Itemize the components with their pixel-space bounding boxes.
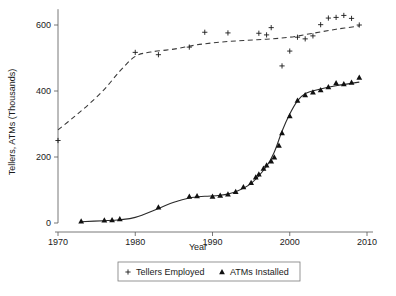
data-point-triangle: [156, 204, 162, 209]
x-tick-group: 19701980199020002010: [48, 232, 377, 247]
data-point-triangle: [349, 79, 355, 84]
y-axis-title: Tellers, ATMs (Thousands): [7, 69, 17, 175]
trend-line-tellers: [58, 26, 359, 130]
legend-item-tellers[interactable]: Tellers Employed: [125, 267, 204, 277]
data-point-triangle: [333, 80, 339, 85]
legend-label: Tellers Employed: [136, 267, 205, 277]
data-point-triangle: [356, 74, 362, 79]
chart-figure: 0200400600 19701980199020002010 Year Tel…: [0, 0, 396, 296]
x-axis-title: Year: [189, 242, 207, 252]
data-point-triangle: [101, 217, 107, 222]
y-tick-group: 0200400600: [36, 20, 58, 228]
y-tick-label: 400: [36, 86, 51, 96]
data-point-triangle: [117, 216, 123, 221]
x-tick-label: 1970: [48, 237, 68, 247]
legend-item-atms[interactable]: ATMs Installed: [219, 267, 289, 277]
x-tick-label: 2010: [357, 237, 377, 247]
y-tick-label: 0: [46, 218, 51, 228]
series-layer: [55, 13, 362, 224]
series-atms: [78, 74, 362, 223]
x-tick-label: 1980: [125, 237, 145, 247]
x-tick-label: 2000: [280, 237, 300, 247]
data-point-triangle: [287, 113, 293, 118]
data-point-triangle: [279, 130, 285, 135]
y-tick-label: 200: [36, 152, 51, 162]
data-point-triangle: [78, 218, 84, 223]
legend-label: ATMs Installed: [230, 267, 289, 277]
y-axis: 0200400600: [36, 9, 58, 228]
data-point-triangle: [194, 193, 200, 198]
series-tellers: [55, 13, 361, 143]
trend-line-atms: [81, 82, 359, 222]
chart-canvas: 0200400600 19701980199020002010 Year Tel…: [0, 0, 396, 296]
chart-legend: Tellers EmployedATMs Installed: [118, 262, 300, 281]
y-tick-label: 600: [36, 20, 51, 30]
x-axis: 19701980199020002010: [48, 232, 377, 247]
data-point-triangle: [186, 194, 192, 199]
